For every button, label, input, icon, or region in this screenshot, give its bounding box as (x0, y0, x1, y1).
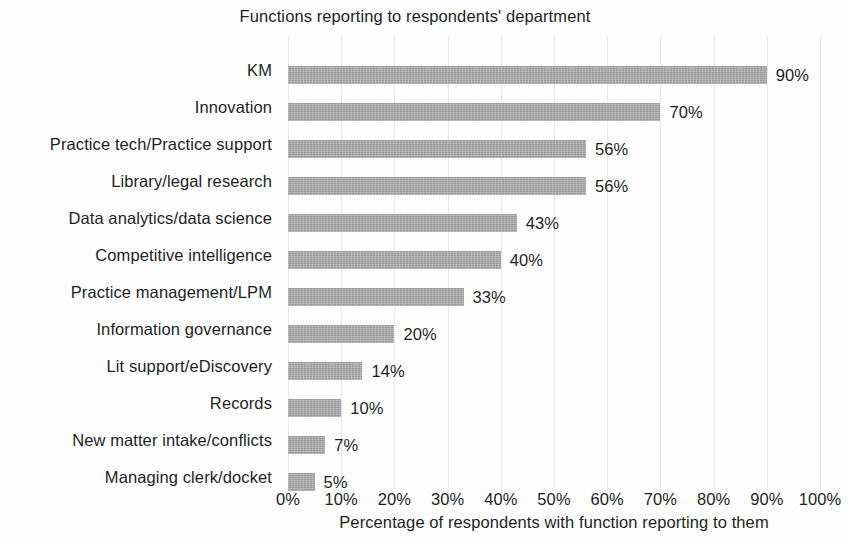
x-tick-label: 60% (591, 489, 624, 509)
bar-value-label: 40% (510, 251, 543, 269)
bar (288, 362, 362, 380)
bar (288, 103, 660, 121)
bar-row: Information governance20% (288, 310, 820, 347)
x-tick-label: 50% (537, 489, 570, 509)
category-label: Lit support/eDiscovery (107, 356, 272, 375)
bar-row: Lit support/eDiscovery14% (288, 347, 820, 384)
bar-value-label: 56% (595, 140, 628, 158)
bar-value-label: 56% (595, 177, 628, 195)
x-axis-title: Percentage of respondents with function … (288, 512, 820, 532)
bar-row: Practice management/LPM33% (288, 273, 820, 310)
bar-row: Innovation70% (288, 88, 820, 125)
bar-value-label: 43% (526, 214, 559, 232)
category-label: Competitive intelligence (95, 245, 272, 264)
bar-row: Records10% (288, 384, 820, 421)
x-tick-label: 70% (644, 489, 677, 509)
bar-value-label: 20% (403, 325, 436, 343)
category-label: Innovation (195, 97, 272, 116)
bar-value-label: 14% (371, 362, 404, 380)
category-label: Practice tech/Practice support (50, 134, 272, 153)
bar-value-label: 7% (334, 436, 358, 454)
x-tick-label: 0% (276, 489, 300, 509)
plot-area: KM90%Innovation70%Practice tech/Practice… (288, 36, 820, 490)
bar (288, 214, 517, 232)
bar (288, 140, 586, 158)
bar-row: Data analytics/data science43% (288, 199, 820, 236)
bar-row: New matter intake/conflicts7% (288, 421, 820, 458)
category-label: Records (210, 393, 272, 412)
bar-chart: Functions reporting to respondents' depa… (0, 0, 849, 543)
x-tick-label: 100% (799, 489, 842, 509)
x-tick-label: 40% (484, 489, 517, 509)
bar-row: Library/legal research56% (288, 162, 820, 199)
category-label: Practice management/LPM (71, 282, 272, 301)
x-tick-label: 80% (697, 489, 730, 509)
bar (288, 288, 464, 306)
category-label: Managing clerk/docket (105, 467, 272, 486)
x-tick-label: 90% (750, 489, 783, 509)
gridline (820, 36, 821, 490)
bar-row: Competitive intelligence40% (288, 236, 820, 273)
x-tick-label: 30% (431, 489, 464, 509)
bar-value-label: 33% (473, 288, 506, 306)
category-label: Library/legal research (111, 171, 272, 190)
x-axis-ticks: 0%10%20%30%40%50%60%70%80%90%100% (288, 489, 820, 511)
bar (288, 436, 325, 454)
bar (288, 251, 501, 269)
category-label: New matter intake/conflicts (72, 430, 272, 449)
category-label: KM (247, 60, 272, 79)
bar-row: Practice tech/Practice support56% (288, 125, 820, 162)
bar (288, 399, 341, 417)
bar-value-label: 90% (776, 66, 809, 84)
chart-title: Functions reporting to respondents' depa… (0, 6, 830, 26)
bar-row: KM90% (288, 51, 820, 88)
category-label: Data analytics/data science (68, 208, 272, 227)
category-label: Information governance (96, 319, 272, 338)
bar-value-label: 70% (669, 103, 702, 121)
x-tick-label: 20% (378, 489, 411, 509)
bar-value-label: 10% (350, 399, 383, 417)
x-tick-label: 10% (325, 489, 358, 509)
bar (288, 325, 394, 343)
bar (288, 177, 586, 195)
bar (288, 66, 767, 84)
